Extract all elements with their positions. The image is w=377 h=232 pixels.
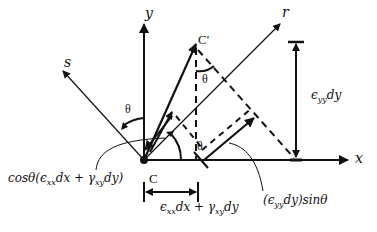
r-axis [144,24,280,160]
y-disp-sub1: yy [318,95,327,104]
cos-term-suffix: dy) [104,171,123,185]
r-axis-label: r [282,5,289,19]
cos-term-sub1: xx [47,178,56,187]
cos-term-sub2: xy [95,178,104,187]
sin-term-vector [204,118,254,160]
y-disp-prefix: ϵ [311,88,318,102]
x-disp-prefix: ϵ [160,200,167,214]
s-axis [63,71,144,160]
cos-term-prefix: cosθ(ϵ [8,171,47,185]
angle-arc-c-prime [196,66,214,71]
theta-label-y-s: θ [125,103,131,115]
x-axis-label: x [355,151,363,165]
theta-label-c: θ [197,140,203,152]
y-disp-suffix: dy [327,88,341,102]
sin-term-prefix: (ϵ [263,193,274,207]
x-disp-mid: dx + γ [176,200,215,214]
x-displacement-annotation: ϵxxdx + γxydy [160,201,239,216]
theta-label-c-prime: θ [202,73,208,85]
sin-term-annotation: (ϵyydy)sinθ [263,194,328,209]
cos-term-annotation: cosθ(ϵxxdx + γxydy) [8,172,123,187]
sin-term-suffix: dy)sinθ [283,193,327,207]
x-disp-sub2: xy [215,207,224,216]
cos-term-mid: dx + γ [56,171,95,185]
y-axis-label: y [145,6,153,20]
dashed-parallel-r [202,108,252,150]
c-prime-label: C' [198,33,209,46]
angle-arc-y-s [124,118,144,125]
y-displacement-annotation: ϵyydy [311,89,341,104]
x-disp-suffix: dy [224,200,238,214]
c-label: C [149,172,158,185]
s-axis-label: s [64,55,71,69]
angle-arc-x-r [171,134,181,160]
leader-sin-term [229,143,263,191]
x-disp-sub1: xx [167,207,176,216]
